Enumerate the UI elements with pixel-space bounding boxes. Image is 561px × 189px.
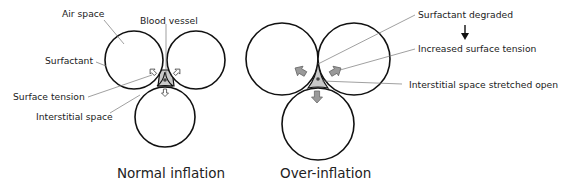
alveoli-diagram: Air space Blood vessel Surfactant Surfac… (0, 0, 561, 189)
label-interstitial-stretched: Interstitial space stretched open (409, 79, 558, 90)
label-increased-surface-tension: Increased surface tension (418, 43, 537, 54)
blood-vessel-dot-normal (163, 78, 167, 82)
label-interstitial-space: Interstitial space (36, 111, 113, 122)
caption-over-inflation: Over-inflation (280, 165, 371, 181)
caption-normal-inflation: Normal inflation (117, 165, 225, 181)
panel-normal-inflation: Air space Blood vessel Surfactant Surfac… (13, 8, 225, 181)
label-surfactant: Surfactant (45, 55, 93, 66)
alveolus-top-left (105, 31, 163, 89)
blood-vessel-dot-over (316, 77, 320, 81)
label-surface-tension: Surface tension (13, 91, 85, 102)
label-surfactant-degraded: Surfactant degraded (418, 9, 513, 20)
panel-over-inflation: Surfactant degraded Increased surface te… (246, 9, 558, 181)
alveolus-top-right (167, 31, 225, 89)
down-arrow-icon (461, 25, 469, 40)
alveolus-top-left-over (246, 23, 318, 95)
label-air-space: Air space (62, 8, 105, 19)
label-blood-vessel: Blood vessel (140, 15, 198, 26)
